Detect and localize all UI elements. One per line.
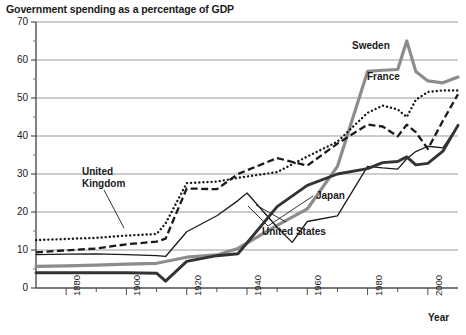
- y-tick-label-50: 50: [2, 92, 28, 103]
- x-tick-label-1940: 1940: [252, 275, 263, 296]
- series-line-united-states: [36, 125, 458, 281]
- y-tick-label-20: 20: [2, 206, 28, 217]
- gridlines: [36, 22, 458, 250]
- y-tick-label-30: 30: [2, 168, 28, 179]
- y-tick-label-0: 0: [2, 282, 28, 293]
- leader-line-united-kingdom: [104, 190, 124, 228]
- chart-container: Government spending as a percentage of G…: [0, 0, 466, 335]
- x-tick-label-1880: 1880: [71, 275, 82, 296]
- series-label-france: France: [367, 71, 400, 83]
- x-axis-title: Year: [428, 312, 449, 323]
- x-tick-label-1960: 1960: [312, 275, 323, 296]
- y-tick-label-70: 70: [2, 16, 28, 27]
- x-tick-label-1980: 1980: [373, 275, 384, 296]
- chart-plot-svg: [0, 0, 466, 335]
- y-tick-label-60: 60: [2, 54, 28, 65]
- series-label-japan: Japan: [316, 190, 345, 202]
- y-tick-label-40: 40: [2, 130, 28, 141]
- x-tick-label-1920: 1920: [192, 275, 203, 296]
- y-tick-label-10: 10: [2, 244, 28, 255]
- series-label-united-kingdom-line1: United: [82, 166, 113, 178]
- series-label-united-kingdom-line2: Kingdom: [82, 178, 125, 190]
- series-line-japan: [36, 125, 458, 256]
- x-tick-label-1900: 1900: [131, 275, 142, 296]
- series-label-united-states: United States: [262, 226, 326, 238]
- series-label-sweden: Sweden: [352, 40, 390, 52]
- x-tick-label-2000: 2000: [433, 275, 444, 296]
